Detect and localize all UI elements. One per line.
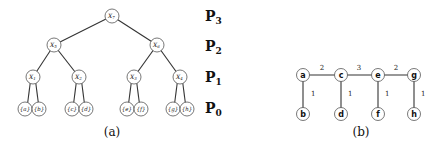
svg-text:{g}: {g} bbox=[168, 106, 179, 113]
leaf-node-c: {c} bbox=[65, 102, 79, 116]
graph-node-f: f bbox=[372, 108, 385, 121]
caption-a: (a) bbox=[104, 125, 121, 139]
edge-weight: 2 bbox=[320, 64, 324, 72]
tree-node-x7: X7 bbox=[105, 9, 119, 23]
svg-text:e: e bbox=[375, 71, 381, 80]
partition-label-p3: P3 bbox=[205, 8, 222, 26]
edge-weight: 2 bbox=[394, 64, 398, 72]
edge-weight: 1 bbox=[385, 90, 389, 98]
tree-edge bbox=[112, 16, 157, 45]
edge-weight: 1 bbox=[311, 90, 315, 98]
graph-node-c: c bbox=[335, 69, 348, 82]
svg-text:b: b bbox=[300, 110, 306, 119]
graph-node-d: d bbox=[335, 108, 348, 121]
tree-node-x4: X4 bbox=[173, 70, 187, 84]
svg-text:d: d bbox=[338, 110, 344, 119]
partition-label-p2: P2 bbox=[205, 38, 222, 56]
leaf-node-a: {a} bbox=[18, 102, 32, 116]
caption-b: (b) bbox=[352, 125, 369, 139]
figure-a-tree: X7 X5 X6 X1 X2 X3 X4 {a} bbox=[18, 8, 222, 139]
graph-node-b: b bbox=[297, 108, 310, 121]
leaf-node-g: {g} bbox=[166, 102, 180, 116]
tree-node-x5: X5 bbox=[47, 38, 61, 52]
tree-node-x3: X3 bbox=[127, 70, 141, 84]
svg-text:{e}: {e} bbox=[122, 106, 132, 112]
tree-node-x6: X6 bbox=[150, 38, 164, 52]
leaf-node-b: {b} bbox=[32, 102, 46, 116]
svg-text:{d}: {d} bbox=[81, 106, 92, 112]
graph-node-g: g bbox=[408, 69, 421, 82]
edge-weight: 3 bbox=[357, 64, 361, 72]
leaf-node-e: {e} bbox=[120, 102, 134, 116]
graph-node-h: h bbox=[408, 108, 421, 121]
figure-canvas: X7 X5 X6 X1 X2 X3 X4 {a} bbox=[0, 0, 439, 148]
tree-node-x1: X1 bbox=[26, 70, 40, 84]
svg-text:a: a bbox=[300, 71, 305, 80]
svg-text:{c}: {c} bbox=[67, 106, 77, 112]
partition-label-p0: P0 bbox=[205, 100, 222, 118]
svg-text:c: c bbox=[339, 71, 344, 80]
svg-text:h: h bbox=[411, 110, 417, 119]
tree-node-x2: X2 bbox=[72, 70, 86, 84]
svg-text:{f}: {f} bbox=[136, 106, 145, 113]
graph-node-a: a bbox=[297, 69, 310, 82]
figure-b-graph: 2 3 2 1 1 1 1 a c e g b d bbox=[297, 64, 426, 139]
leaf-node-h: {h} bbox=[180, 102, 194, 116]
partition-labels: P3 P2 P1 P0 bbox=[205, 8, 222, 118]
svg-text:{h}: {h} bbox=[182, 106, 193, 112]
partition-label-p1: P1 bbox=[205, 69, 222, 87]
leaf-node-f: {f} bbox=[134, 102, 148, 116]
tree-edge bbox=[54, 16, 112, 45]
svg-text:f: f bbox=[376, 110, 380, 119]
leaf-node-d: {d} bbox=[79, 102, 93, 116]
svg-text:{a}: {a} bbox=[20, 106, 30, 112]
edge-weight: 1 bbox=[348, 90, 352, 98]
svg-text:{b}: {b} bbox=[34, 106, 45, 112]
graph-node-e: e bbox=[372, 69, 385, 82]
svg-text:g: g bbox=[411, 71, 417, 80]
edge-weight: 1 bbox=[421, 90, 425, 98]
